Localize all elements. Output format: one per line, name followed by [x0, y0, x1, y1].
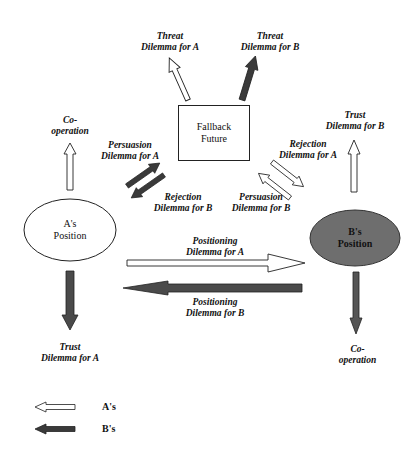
threat-dilemma-b-label: Threat Dilemma for B [225, 31, 315, 53]
positioning-dilemma-b-label: Positioning Dilemma for B [170, 297, 260, 319]
coop-b-line2: operation [325, 355, 390, 366]
persuasion-b-line2: Dilemma for B [221, 203, 301, 214]
trust-a-line2: Dilemma for A [25, 353, 115, 364]
b-position-label: B's Position [315, 226, 395, 250]
rejection-a-line1: Rejection [268, 139, 348, 150]
b-position-line1: B's [315, 226, 395, 238]
cooperation-a-label: Co- operation [40, 115, 100, 137]
rejection-a-line2: Dilemma for A [268, 150, 348, 161]
trust-b-line1: Trust [315, 110, 395, 121]
cooperation-b-arrow [350, 272, 362, 334]
threat-a-line2: Dilemma for A [125, 42, 215, 53]
fallback-line2: Future [178, 133, 250, 145]
legend-a-arrow-icon [35, 402, 75, 412]
threat-a-arrow [164, 56, 194, 103]
threat-dilemma-a-label: Threat Dilemma for A [125, 31, 215, 53]
rejection-dilemma-a-label: Rejection Dilemma for A [268, 139, 348, 161]
positioning-b-line1: Positioning [170, 297, 260, 308]
trust-b-line2: Dilemma for B [315, 121, 395, 132]
coop-a-line2: operation [40, 126, 100, 137]
persuasion-dilemma-a-label: Persuasion Dilemma for A [90, 140, 170, 162]
cooperation-b-label: Co- operation [325, 344, 390, 366]
coop-b-line1: Co- [325, 344, 390, 355]
fallback-future-label: Fallback Future [178, 121, 250, 145]
threat-b-arrow [236, 54, 262, 102]
positioning-a-line2: Dilemma for A [170, 247, 260, 258]
fallback-line1: Fallback [178, 121, 250, 133]
rejection-b-line1: Rejection [143, 192, 223, 203]
threat-b-line2: Dilemma for B [225, 42, 315, 53]
b-position-line2: Position [315, 238, 395, 250]
persuasion-a-arrow [124, 159, 163, 191]
legend-b-label: B's [102, 423, 115, 435]
rejection-b-line2: Dilemma for B [143, 203, 223, 214]
rejection-dilemma-b-label: Rejection Dilemma for B [143, 192, 223, 214]
coop-a-line1: Co- [40, 115, 100, 126]
trust-dilemma-a-label: Trust Dilemma for A [25, 342, 115, 364]
persuasion-a-line1: Persuasion [90, 140, 170, 151]
threat-b-line1: Threat [225, 31, 315, 42]
trust-a-arrow [62, 271, 78, 330]
threat-a-line1: Threat [125, 31, 215, 42]
cooperation-a-arrow [64, 143, 76, 190]
positioning-dilemma-a-label: Positioning Dilemma for A [170, 236, 260, 258]
a-position-line1: A's [30, 218, 110, 230]
trust-b-arrow [348, 140, 360, 192]
a-position-line2: Position [30, 230, 110, 242]
trust-a-line1: Trust [25, 342, 115, 353]
positioning-b-line2: Dilemma for B [170, 308, 260, 319]
persuasion-dilemma-b-label: Persuasion Dilemma for B [221, 192, 301, 214]
legend-a-label: A's [102, 401, 116, 413]
positioning-a-line1: Positioning [170, 236, 260, 247]
positioning-b-arrow [123, 281, 302, 295]
persuasion-b-line1: Persuasion [221, 192, 301, 203]
legend-b-arrow-icon [35, 424, 75, 434]
persuasion-a-line2: Dilemma for A [90, 151, 170, 162]
trust-dilemma-b-label: Trust Dilemma for B [315, 110, 395, 132]
a-position-label: A's Position [30, 218, 110, 242]
